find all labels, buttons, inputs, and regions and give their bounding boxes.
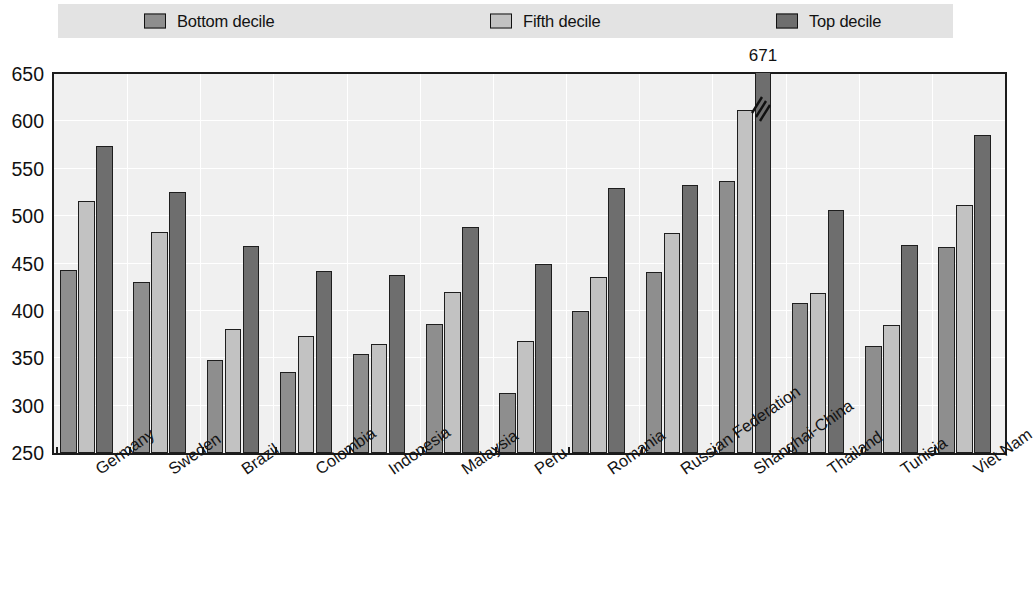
legend-swatch-icon: [144, 14, 166, 29]
y-axis-tick-label: 350: [2, 347, 44, 370]
legend-label: Bottom decile: [177, 12, 274, 31]
legend-item-fifth-decile: Fifth decile: [490, 12, 600, 31]
bar[interactable]: [938, 247, 955, 453]
chart-legend: Bottom decile Fifth decile Top decile: [58, 4, 953, 38]
bar[interactable]: [462, 227, 479, 453]
bar[interactable]: [682, 185, 699, 453]
bar[interactable]: [96, 146, 113, 453]
bar[interactable]: [243, 246, 260, 454]
bar[interactable]: [572, 311, 589, 453]
bar[interactable]: [956, 205, 973, 453]
legend-swatch-icon: [490, 14, 512, 29]
x-axis-tick-mark: [568, 447, 570, 454]
bar[interactable]: [737, 110, 754, 453]
bar[interactable]: [646, 272, 663, 453]
bar[interactable]: [298, 336, 315, 453]
bar-value-label: 671: [749, 46, 777, 66]
legend-label: Top decile: [809, 12, 881, 31]
y-axis-tick-label: 650: [2, 63, 44, 86]
y-axis-tick-label: 600: [2, 110, 44, 133]
bar[interactable]: [389, 275, 406, 453]
bar[interactable]: 671: [755, 72, 772, 453]
y-axis-tick-label: 500: [2, 205, 44, 228]
bar[interactable]: [664, 233, 681, 453]
bar[interactable]: [517, 341, 534, 453]
bar[interactable]: [901, 245, 918, 453]
bar[interactable]: [225, 329, 242, 453]
bars-layer: 671: [54, 74, 1005, 453]
legend-swatch-icon: [776, 14, 798, 29]
legend-item-top-decile: Top decile: [776, 12, 881, 31]
x-axis-labels: GermanySwedenBrazilColombiaIndonesiaMala…: [0, 455, 1009, 595]
y-axis-tick-label: 400: [2, 299, 44, 322]
bar[interactable]: [316, 271, 333, 453]
bar[interactable]: [719, 181, 736, 453]
bar[interactable]: [78, 201, 95, 453]
bar[interactable]: [974, 135, 991, 453]
legend-item-bottom-decile: Bottom decile: [144, 12, 274, 31]
plot-area: 671: [52, 72, 1007, 455]
bar[interactable]: [608, 188, 625, 453]
bar[interactable]: [280, 372, 297, 453]
legend-label: Fifth decile: [523, 12, 600, 31]
bar[interactable]: [169, 192, 186, 453]
bar[interactable]: [883, 325, 900, 453]
bar[interactable]: [60, 270, 77, 453]
y-axis-tick-label: 450: [2, 252, 44, 275]
bar[interactable]: [590, 277, 607, 453]
axis-break-icon: [750, 91, 776, 125]
bar[interactable]: [151, 232, 168, 453]
x-axis-tick-mark: [56, 447, 58, 454]
bar[interactable]: [535, 264, 552, 453]
y-axis-tick-label: 300: [2, 394, 44, 417]
y-axis-tick-label: 550: [2, 157, 44, 180]
